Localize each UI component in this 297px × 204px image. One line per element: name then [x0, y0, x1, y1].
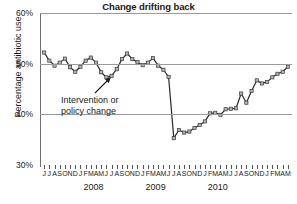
x-axis-tick — [60, 165, 61, 169]
data-point-marker — [120, 58, 123, 61]
x-axis-tick — [257, 165, 258, 169]
y-axis-tick-40: 40% — [3, 109, 33, 119]
x-axis-tick — [70, 165, 71, 169]
x-axis-tick — [246, 165, 247, 169]
data-point-marker — [84, 59, 87, 62]
x-axis-tick — [44, 165, 45, 169]
x-axis-tick — [189, 165, 190, 169]
x-axis-tick — [86, 165, 87, 169]
x-axis-tick — [122, 165, 123, 169]
x-axis-tick — [195, 165, 196, 169]
data-point-marker — [110, 74, 113, 77]
x-axis-tick — [262, 165, 263, 169]
data-point-marker — [260, 82, 263, 85]
data-point-marker — [250, 89, 253, 92]
x-axis-tick — [169, 165, 170, 169]
x-axis-tick — [231, 165, 232, 169]
data-point-marker — [126, 52, 129, 55]
x-axis-tick — [112, 165, 113, 169]
data-point-marker — [286, 65, 289, 68]
data-point-marker — [271, 76, 274, 79]
data-point-marker — [183, 131, 186, 134]
data-series-line — [40, 13, 292, 165]
data-point-marker — [68, 66, 71, 69]
annotation-line-1: Intervention or — [61, 95, 161, 106]
x-axis-tick — [277, 165, 278, 169]
x-axis-tick — [65, 165, 66, 169]
data-point-marker — [63, 57, 66, 60]
plot-area — [40, 13, 292, 165]
x-axis-year-label: 2008 — [63, 182, 123, 192]
data-point-marker — [266, 80, 269, 83]
data-point-marker — [115, 68, 118, 71]
x-axis-month-label: M — [283, 170, 293, 177]
data-point-marker — [203, 120, 206, 123]
y-axis-tick-60: 60% — [3, 8, 33, 18]
y-axis-tick-labels: 30%40%50%60% — [3, 0, 33, 204]
x-axis-tick — [226, 165, 227, 169]
data-point-marker — [188, 130, 191, 133]
data-point-marker — [255, 79, 258, 82]
annotation-line-2: policy change — [61, 106, 161, 117]
x-axis-tick — [220, 165, 221, 169]
x-axis-year-label: 2010 — [188, 182, 248, 192]
data-point-marker — [167, 75, 170, 78]
data-point-marker — [240, 92, 243, 95]
x-axis-tick — [205, 165, 206, 169]
x-axis-tick — [75, 165, 76, 169]
data-point-marker — [172, 137, 175, 140]
x-axis-tick — [272, 165, 273, 169]
x-axis-tick — [241, 165, 242, 169]
x-axis-tick — [288, 165, 289, 169]
x-axis-tick — [200, 165, 201, 169]
data-point-marker — [131, 58, 134, 61]
data-point-marker — [193, 126, 196, 129]
data-point-marker — [100, 71, 103, 74]
x-axis-tick — [106, 165, 107, 169]
data-point-marker — [162, 68, 165, 71]
x-axis-year-label: 2009 — [126, 182, 186, 192]
data-point-marker — [177, 128, 180, 131]
data-point-marker — [43, 51, 46, 54]
data-point-marker — [48, 59, 51, 62]
data-point-marker — [79, 65, 82, 68]
x-axis-tick — [158, 165, 159, 169]
chart-container: Change drifting back Percentage antibiot… — [0, 0, 297, 204]
gridline-60 — [40, 13, 292, 14]
x-axis-tick — [163, 165, 164, 169]
data-point-marker — [281, 70, 284, 73]
x-axis-tick — [283, 165, 284, 169]
x-axis-tick — [148, 165, 149, 169]
x-axis-tick — [179, 165, 180, 169]
x-axis-tick — [236, 165, 237, 169]
x-axis-tick — [127, 165, 128, 169]
x-axis-year-labels: 200820092010 — [40, 182, 293, 196]
x-axis-tick — [132, 165, 133, 169]
data-point-marker — [105, 76, 108, 79]
chart-title: Change drifting back — [0, 1, 297, 12]
data-point-marker — [74, 70, 77, 73]
x-axis-tick — [137, 165, 138, 169]
y-axis-tick-50: 50% — [3, 59, 33, 69]
data-point-marker — [89, 56, 92, 59]
gridline-50 — [40, 64, 292, 65]
x-axis-tick — [143, 165, 144, 169]
x-axis-tick — [49, 165, 50, 169]
data-point-marker — [234, 107, 237, 110]
y-axis-tick-30: 30% — [3, 160, 33, 170]
x-axis-tick — [80, 165, 81, 169]
data-point-marker — [198, 123, 201, 126]
x-axis-tick — [267, 165, 268, 169]
x-axis-tick — [153, 165, 154, 169]
x-axis-tick — [174, 165, 175, 169]
data-point-marker — [151, 56, 154, 59]
x-axis-tick — [55, 165, 56, 169]
data-point-marker — [229, 107, 232, 110]
data-point-marker — [276, 72, 279, 75]
x-axis-tick — [91, 165, 92, 169]
x-axis-tick — [96, 165, 97, 169]
data-point-marker — [245, 101, 248, 104]
x-axis-tick — [252, 165, 253, 169]
x-axis-tick — [101, 165, 102, 169]
x-axis-tick — [184, 165, 185, 169]
